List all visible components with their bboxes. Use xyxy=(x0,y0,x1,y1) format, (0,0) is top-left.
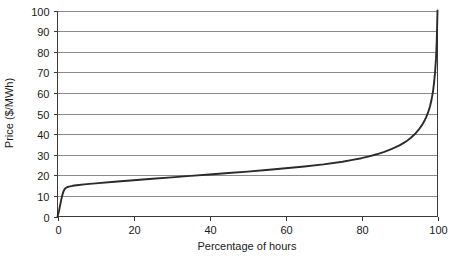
x-tick-label: 80 xyxy=(356,224,368,236)
chart-background xyxy=(0,0,451,266)
y-tick-label: 50 xyxy=(37,109,49,121)
x-tick-label: 100 xyxy=(429,224,447,236)
y-tick-label: 80 xyxy=(37,47,49,59)
x-axis-title: Percentage of hours xyxy=(197,240,297,252)
y-axis-title: Price ($/MWh) xyxy=(3,78,15,148)
price-duration-chart: 0102030405060708090100 020406080100 Pric… xyxy=(0,0,451,266)
y-tick-label: 20 xyxy=(37,170,49,182)
y-tick-label: 70 xyxy=(37,67,49,79)
chart-canvas: 0102030405060708090100 020406080100 Pric… xyxy=(0,0,451,266)
y-tick-label: 10 xyxy=(37,191,49,203)
y-tick-label: 30 xyxy=(37,150,49,162)
x-tick-label: 40 xyxy=(204,224,216,236)
y-tick-label: 40 xyxy=(37,129,49,141)
y-tick-label: 100 xyxy=(31,6,49,18)
y-tick-label: 60 xyxy=(37,88,49,100)
x-tick-label: 20 xyxy=(128,224,140,236)
y-tick-label: 0 xyxy=(43,212,49,224)
x-tick-label: 0 xyxy=(55,224,61,236)
x-tick-label: 60 xyxy=(280,224,292,236)
y-tick-label: 90 xyxy=(37,26,49,38)
